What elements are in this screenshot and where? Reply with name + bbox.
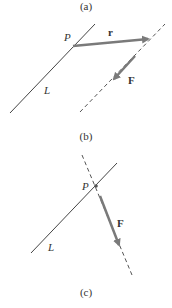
point-p-label: P [81,180,89,192]
panel-b-caption: (b) [80,130,93,143]
line-l-label: L [43,84,50,96]
diagram-canvas: (a) P r F L (b) P F L (c) [0,0,172,308]
panel-a: (a) P r F L [10,0,165,113]
line-l [10,24,95,113]
vector-r-arrow [73,39,148,46]
line-l-label: L [47,241,54,253]
point-p-dot [94,184,98,188]
panel-a-caption: (a) [80,0,93,13]
vector-f-label: F [128,74,135,86]
vector-f-label: F [117,217,124,229]
panel-b: P F L [31,155,132,275]
vector-r-label: r [108,26,113,38]
panel-c-caption: (c) [80,286,93,299]
point-p-label: P [63,31,71,43]
